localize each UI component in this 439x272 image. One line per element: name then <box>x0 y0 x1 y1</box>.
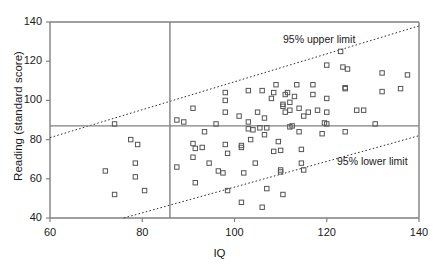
data-point <box>272 90 276 94</box>
limit-lines <box>50 26 419 218</box>
data-point <box>299 147 303 151</box>
data-point <box>315 108 319 112</box>
data-point <box>175 165 179 169</box>
data-point <box>175 118 179 122</box>
x-tick-label-120: 120 <box>307 227 347 238</box>
data-point <box>325 96 329 100</box>
data-point <box>398 86 402 90</box>
data-point <box>262 116 266 120</box>
data-point <box>288 108 292 112</box>
data-point <box>225 151 229 155</box>
data-point <box>269 96 273 100</box>
x-tick-label-100: 100 <box>215 227 255 238</box>
data-point <box>380 71 384 75</box>
data-point <box>301 168 305 172</box>
data-point <box>129 137 133 141</box>
data-point <box>297 106 301 110</box>
upper-limit-line <box>50 26 419 138</box>
data-point <box>255 110 259 114</box>
data-point <box>265 186 269 190</box>
data-point <box>133 175 137 179</box>
data-point <box>262 133 266 137</box>
data-point <box>380 89 384 93</box>
data-point <box>135 142 139 146</box>
data-point <box>274 83 278 87</box>
data-point <box>405 73 409 77</box>
data-point <box>355 108 359 112</box>
data-point <box>276 139 280 143</box>
data-point <box>191 155 195 159</box>
scatter-chart: 6080100120140406080100120140 Reading (st… <box>0 0 439 272</box>
data-point <box>223 110 227 114</box>
data-point <box>182 120 186 124</box>
data-point <box>221 171 225 175</box>
data-point <box>306 110 310 114</box>
data-points <box>103 49 410 209</box>
data-point <box>237 114 241 118</box>
data-point <box>301 114 305 118</box>
data-point <box>295 83 299 87</box>
data-point <box>338 49 342 53</box>
data-point <box>345 67 349 71</box>
data-point <box>297 130 301 134</box>
data-point <box>242 171 246 175</box>
data-point <box>251 128 255 132</box>
data-point <box>191 106 195 110</box>
data-point <box>260 88 264 92</box>
data-point <box>283 110 287 114</box>
data-point <box>299 161 303 165</box>
data-point <box>200 145 204 149</box>
data-point <box>193 146 197 150</box>
data-point <box>292 94 296 98</box>
reference-lines <box>50 22 419 218</box>
y-tick-label-140: 140 <box>2 16 42 27</box>
data-point <box>246 127 250 131</box>
y-axis-title: Reading (standard score) <box>12 41 24 191</box>
data-point <box>207 161 211 165</box>
data-point <box>112 192 116 196</box>
data-point <box>223 90 227 94</box>
data-point <box>253 161 257 165</box>
x-tick-label-140: 140 <box>399 227 439 238</box>
data-point <box>260 205 264 209</box>
data-point <box>133 161 137 165</box>
lower-limit-label: 95% lower limit <box>337 155 408 167</box>
data-point <box>191 141 195 145</box>
data-point <box>320 132 324 136</box>
data-point <box>361 108 365 112</box>
lower-limit-line <box>124 136 419 218</box>
x-axis-title: IQ <box>0 247 439 259</box>
data-point <box>278 148 282 152</box>
data-point <box>223 98 227 102</box>
x-tick-label-80: 80 <box>122 227 162 238</box>
data-point <box>325 110 329 114</box>
data-point <box>246 88 250 92</box>
data-point <box>202 130 206 134</box>
data-point <box>193 181 197 185</box>
data-point <box>281 192 285 196</box>
x-tick-label-60: 60 <box>30 227 70 238</box>
data-point <box>272 149 276 153</box>
data-point <box>341 65 345 69</box>
axes <box>50 22 419 218</box>
data-point <box>288 100 292 104</box>
data-point <box>246 120 250 124</box>
data-point <box>311 83 315 87</box>
data-point <box>103 169 107 173</box>
data-point <box>343 130 347 134</box>
y-tick-label-40: 40 <box>2 212 42 223</box>
data-point <box>142 188 146 192</box>
data-point <box>325 63 329 67</box>
upper-limit-label: 95% upper limit <box>283 33 355 45</box>
data-point <box>239 200 243 204</box>
data-point <box>216 169 220 173</box>
data-point <box>248 137 252 141</box>
data-point <box>223 142 227 146</box>
data-point <box>311 92 315 96</box>
